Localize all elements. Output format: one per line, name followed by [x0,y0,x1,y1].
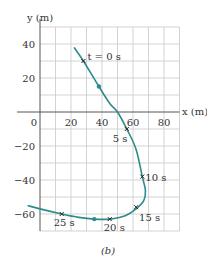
time-marker-label: 20 s [104,222,125,233]
x-tick-label: 40 [96,117,109,128]
time-marker-label: 25 s [54,217,75,228]
trajectory-chart: 0204060804020−20−40−60y (m)x (m)t = 0 s5… [0,0,207,270]
time-marker-label: 10 s [145,172,166,183]
figure-caption: (b) [101,245,115,256]
y-tick-label: 40 [22,39,35,50]
y-tick-label: −40 [14,175,35,186]
x-tick-label: 20 [65,117,78,128]
x-tick-label: 60 [127,117,140,128]
y-tick-label: −20 [14,141,35,152]
x-tick-label: 80 [158,117,171,128]
time-marker-label: t = 0 s [87,51,120,62]
time-marker-label: 15 s [139,212,160,223]
x-axis-label: x (m) [182,106,207,117]
y-tick-label: 20 [22,73,35,84]
x-tick-label: 0 [31,117,37,128]
direction-arrow-icon [97,84,101,88]
direction-arrow-icon [92,217,96,221]
y-tick-label: −60 [14,209,35,220]
time-marker-label: 5 s [113,133,128,144]
y-axis-label: y (m) [26,12,53,23]
